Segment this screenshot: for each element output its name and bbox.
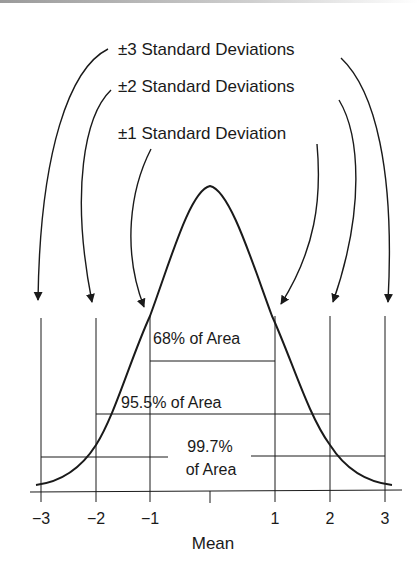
normal-distribution-diagram: ±3 Standard Deviations ±2 Standard Devia… (0, 0, 419, 579)
label-3-std-dev: ±3 Standard Deviations (118, 40, 295, 59)
mean-label: Mean (192, 534, 235, 553)
tick-label-neg3: −3 (32, 510, 50, 527)
arrow-left-1sd (131, 149, 151, 307)
area-label-997-line1: 99.7% (187, 438, 232, 455)
area-label-997-line2: of Area (186, 461, 237, 478)
tick-label-pos2: 2 (326, 510, 335, 527)
tick-label-pos1: 1 (271, 510, 280, 527)
tick-label-pos3: 3 (381, 510, 390, 527)
arrow-left-3sd (38, 49, 108, 300)
arrow-right-2sd (333, 100, 356, 302)
x-axis (30, 490, 402, 492)
area-label-68: 68% of Area (153, 330, 240, 347)
area-label-95: 95.5% of Area (121, 394, 222, 411)
label-1-std-dev: ±1 Standard Deviation (118, 124, 286, 143)
tick-label-neg2: −2 (87, 510, 105, 527)
label-2-std-dev: ±2 Standard Deviations (118, 77, 295, 96)
arrow-right-3sd (341, 58, 389, 302)
arrow-left-2sd (81, 90, 111, 302)
arrow-right-1sd (281, 144, 318, 304)
tick-label-neg1: −1 (141, 510, 159, 527)
